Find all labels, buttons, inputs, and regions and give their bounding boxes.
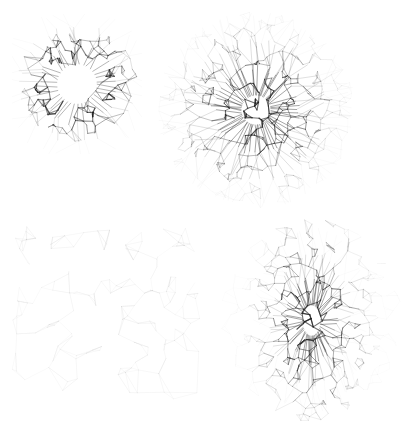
panel-radial-burst-sphere	[158, 12, 354, 208]
caption-strip	[0, 412, 417, 430]
panel-elongated-filament	[215, 218, 408, 423]
panel-sparse-network	[12, 225, 200, 400]
figure-canvas	[0, 0, 417, 430]
panel-toroidal-shell	[12, 14, 142, 154]
